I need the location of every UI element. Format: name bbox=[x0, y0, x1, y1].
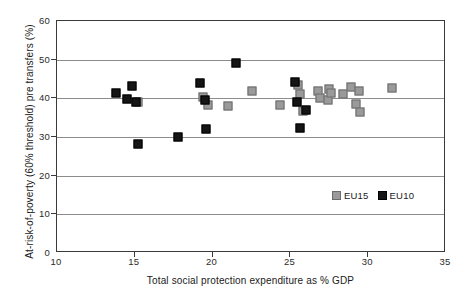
x-tick-label-25: 25 bbox=[284, 256, 295, 267]
legend-label-eu15: EU15 bbox=[344, 190, 369, 201]
chart-legend: EU15EU10 bbox=[332, 190, 414, 201]
data-point-eu10-3 bbox=[132, 98, 141, 107]
data-point-eu10-1 bbox=[123, 94, 132, 103]
y-tick-label-10: 10 bbox=[8, 208, 50, 219]
gridline-y-30 bbox=[57, 137, 444, 138]
x-tick-label-10: 10 bbox=[51, 256, 62, 267]
data-point-eu15-3 bbox=[224, 102, 233, 111]
data-point-eu15-5 bbox=[275, 100, 284, 109]
gridline-y-40 bbox=[57, 98, 444, 99]
y-tick-label-60: 60 bbox=[8, 15, 50, 26]
y-tick-label-30: 30 bbox=[8, 131, 50, 142]
x-tick-label-15: 15 bbox=[128, 256, 139, 267]
legend-label-eu10: EU10 bbox=[390, 190, 415, 201]
gridline-y-20 bbox=[57, 176, 444, 177]
data-point-eu15-13 bbox=[326, 88, 335, 97]
legend-entry-eu10: EU10 bbox=[378, 190, 415, 201]
x-tick-label-35: 35 bbox=[440, 256, 451, 267]
data-point-eu10-4 bbox=[133, 139, 142, 148]
data-point-eu10-8 bbox=[202, 125, 211, 134]
data-point-eu15-18 bbox=[356, 107, 365, 116]
x-axis-label: Total social protection expenditure as %… bbox=[56, 275, 445, 286]
legend-swatch-eu10-icon bbox=[378, 191, 387, 200]
legend-swatch-eu15-icon bbox=[332, 191, 341, 200]
data-point-eu10-0 bbox=[112, 89, 121, 98]
data-point-eu10-2 bbox=[127, 81, 136, 90]
data-point-eu15-19 bbox=[387, 83, 396, 92]
data-point-eu10-11 bbox=[292, 98, 301, 107]
data-point-eu10-5 bbox=[174, 132, 183, 141]
data-point-eu10-6 bbox=[196, 78, 205, 87]
gridline-y-10 bbox=[57, 214, 444, 215]
y-tick-label-20: 20 bbox=[8, 169, 50, 180]
data-point-eu10-13 bbox=[301, 105, 310, 114]
plot-area bbox=[56, 20, 445, 252]
data-point-eu10-7 bbox=[200, 96, 209, 105]
data-point-eu15-4 bbox=[247, 87, 256, 96]
x-tick-label-30: 30 bbox=[362, 256, 373, 267]
x-tick-label-20: 20 bbox=[206, 256, 217, 267]
y-tick-label-50: 50 bbox=[8, 53, 50, 64]
gridline-y-50 bbox=[57, 60, 444, 61]
data-point-eu10-12 bbox=[295, 124, 304, 133]
y-tick-label-0: 0 bbox=[8, 247, 50, 258]
scatter-chart-figure: At-risk-of-poverty (60% threshold) pre t… bbox=[0, 0, 464, 300]
data-point-eu15-17 bbox=[354, 86, 363, 95]
data-point-eu10-10 bbox=[291, 78, 300, 87]
legend-entry-eu15: EU15 bbox=[332, 190, 369, 201]
y-tick-label-40: 40 bbox=[8, 92, 50, 103]
data-point-eu10-9 bbox=[231, 58, 240, 67]
